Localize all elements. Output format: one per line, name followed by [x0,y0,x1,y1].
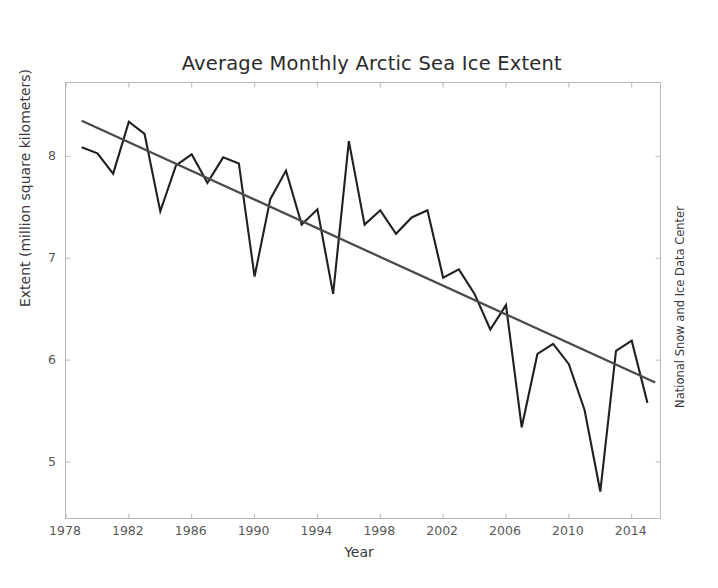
tick-marks [66,83,660,518]
trendline [82,121,656,383]
x-tick-label: 2006 [489,523,521,538]
chart-title-line-1: Average Monthly Arctic Sea Ice Extent [182,52,562,75]
x-tick-label: 2014 [615,523,647,538]
source-credit: National Snow and Ice Data Center [673,167,687,447]
x-tick-label: 1978 [49,523,81,538]
plot-area [65,82,661,519]
y-axis-title: Extent (million square kilometers) [17,18,33,358]
x-tick-label: 2010 [552,523,584,538]
x-tick-label: 1982 [112,523,144,538]
chart-canvas [66,83,660,518]
y-tick-label: 5 [26,453,56,468]
x-tick-label: 1998 [363,523,395,538]
x-tick-label: 1986 [175,523,207,538]
x-tick-label: 2002 [426,523,458,538]
chart-figure: Average Monthly Arctic Sea Ice Extent Au… [0,0,718,588]
x-tick-label: 1990 [238,523,270,538]
x-tick-label: 1994 [301,523,333,538]
x-axis-title: Year [0,544,718,560]
data-series-line [82,122,648,492]
